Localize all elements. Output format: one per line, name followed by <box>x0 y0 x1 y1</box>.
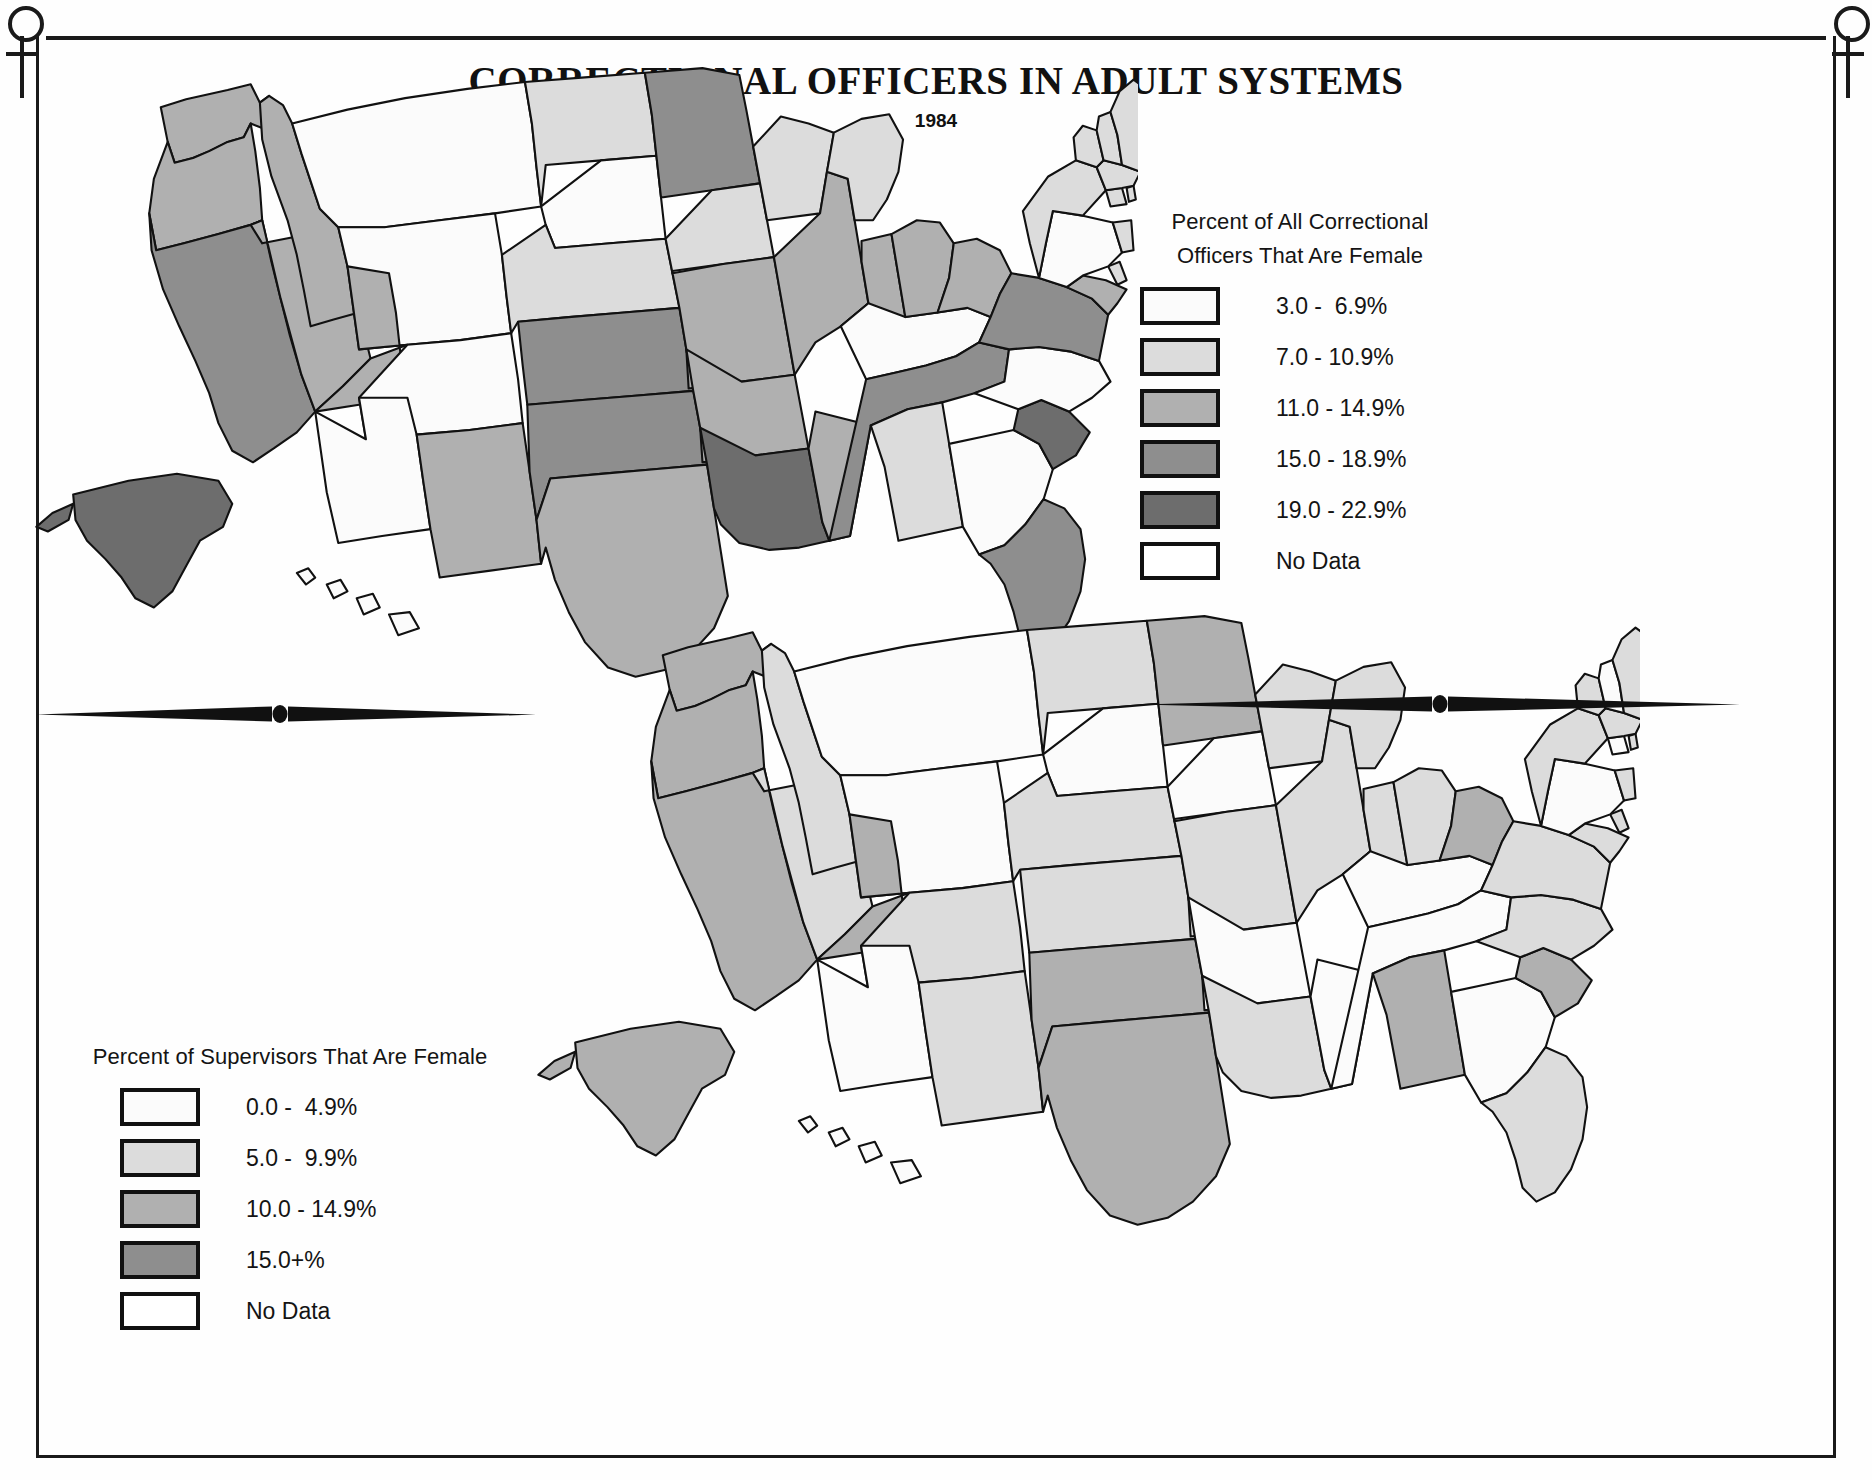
legend-top-label: 7.0 - 10.9% <box>1276 344 1394 371</box>
legend-top-swatch <box>1140 287 1220 325</box>
venus-symbol-icon-right <box>1826 6 1872 102</box>
legend-top-swatch <box>1140 389 1220 427</box>
state-mt <box>292 82 541 227</box>
legend-top-row: 3.0 - 6.9% <box>1090 287 1510 325</box>
state-hi <box>297 568 419 635</box>
legend-supervisors: Percent of Supervisors That Are Female 0… <box>60 1040 520 1330</box>
state-ak-aleutians <box>538 1052 575 1080</box>
legend-top-label: 15.0 - 18.9% <box>1276 446 1406 473</box>
state-ak <box>73 474 232 608</box>
state-al <box>1373 950 1465 1088</box>
divider-ornament-top <box>1140 690 1740 718</box>
state-hi <box>799 1116 921 1183</box>
state-az <box>315 398 430 543</box>
state-nm <box>417 423 541 577</box>
legend-top-row: 19.0 - 22.9% <box>1090 491 1510 529</box>
state-ak <box>575 1022 734 1156</box>
legend-top-swatch <box>1140 338 1220 376</box>
legend-bottom-label: 0.0 - 4.9% <box>246 1094 357 1121</box>
legend-title-top-line2: Officers That Are Female <box>1090 239 1510 273</box>
map-page: CORRECTIONAL OFFICERS IN ADULT SYSTEMS 1… <box>0 0 1872 1480</box>
legend-bottom-row: 10.0 - 14.9% <box>60 1190 520 1228</box>
legend-top-row: 7.0 - 10.9% <box>1090 338 1510 376</box>
legend-bottom-row: 0.0 - 4.9% <box>60 1088 520 1126</box>
state-ks <box>518 308 693 405</box>
legend-bottom-swatch <box>120 1241 200 1279</box>
legend-top-rows: 3.0 - 6.9%7.0 - 10.9%11.0 - 14.9%15.0 - … <box>1090 287 1510 580</box>
legend-title-bottom: Percent of Supervisors That Are Female <box>60 1040 520 1074</box>
state-ak-aleutians <box>36 504 73 532</box>
legend-top-label: No Data <box>1276 548 1360 575</box>
state-mn <box>645 68 760 197</box>
legend-bottom-label: 5.0 - 9.9% <box>246 1145 357 1172</box>
divider-ornament-bottom <box>36 700 536 728</box>
legend-bottom-label: No Data <box>246 1298 330 1325</box>
state-mn <box>1147 616 1262 745</box>
legend-bottom-label: 10.0 - 14.9% <box>246 1196 376 1223</box>
legend-bottom-swatch <box>120 1139 200 1177</box>
legend-bottom-swatch <box>120 1088 200 1126</box>
legend-top-row: No Data <box>1090 542 1510 580</box>
state-ks <box>1020 856 1195 953</box>
legend-bottom-row: 5.0 - 9.9% <box>60 1139 520 1177</box>
legend-bottom-row: 15.0+% <box>60 1241 520 1279</box>
legend-title-top-line1: Percent of All Correctional <box>1090 205 1510 239</box>
legend-top-row: 15.0 - 18.9% <box>1090 440 1510 478</box>
legend-top-row: 11.0 - 14.9% <box>1090 389 1510 427</box>
legend-bottom-label: 15.0+% <box>246 1247 325 1274</box>
legend-title-top: Percent of All Correctional Officers Tha… <box>1090 205 1510 273</box>
legend-top-label: 19.0 - 22.9% <box>1276 497 1406 524</box>
legend-title-bottom-line1: Percent of Supervisors That Are Female <box>60 1040 520 1074</box>
state-sd <box>541 156 665 248</box>
state-az <box>817 946 932 1091</box>
state-mt <box>794 630 1043 775</box>
legend-all-officers: Percent of All Correctional Officers Tha… <box>1090 205 1510 580</box>
legend-bottom-rows: 0.0 - 4.9%5.0 - 9.9%10.0 - 14.9%15.0+%No… <box>60 1088 520 1330</box>
state-ri <box>1127 186 1136 202</box>
legend-bottom-row: No Data <box>60 1292 520 1330</box>
state-ri <box>1629 734 1638 750</box>
legend-bottom-swatch <box>120 1190 200 1228</box>
legend-top-label: 3.0 - 6.9% <box>1276 293 1387 320</box>
legend-bottom-swatch <box>120 1292 200 1330</box>
legend-top-swatch <box>1140 440 1220 478</box>
legend-top-swatch <box>1140 491 1220 529</box>
state-nm <box>919 971 1043 1125</box>
state-tx <box>1039 1013 1230 1225</box>
state-al <box>871 402 963 540</box>
legend-top-swatch <box>1140 542 1220 580</box>
legend-top-label: 11.0 - 14.9% <box>1276 395 1405 422</box>
